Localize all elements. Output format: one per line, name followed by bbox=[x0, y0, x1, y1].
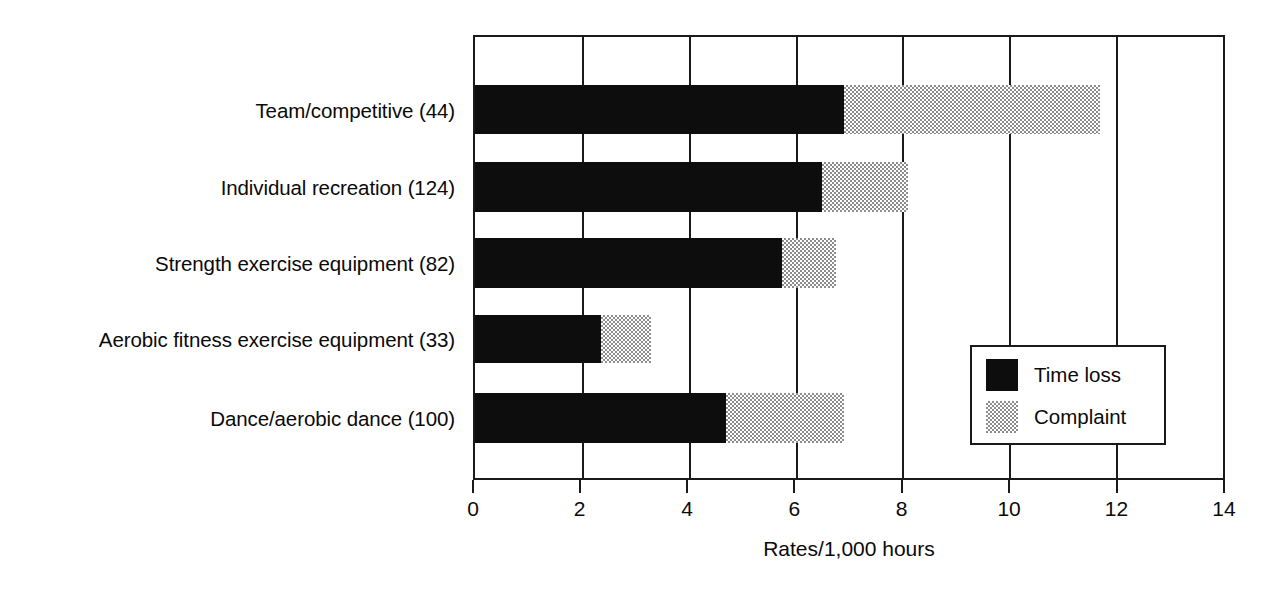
tick-mark-6 bbox=[793, 480, 795, 493]
category-label-text: Team/competitive (44) bbox=[255, 99, 455, 122]
bar-segment-complaint bbox=[822, 162, 907, 212]
legend-swatch-icon bbox=[986, 401, 1018, 433]
tick-label-10: 10 bbox=[979, 498, 1039, 519]
legend-label: Complaint bbox=[1034, 407, 1126, 428]
tick-label-2: 2 bbox=[550, 498, 610, 519]
bar-segment-time-loss bbox=[475, 238, 782, 288]
bar-chart: Team/competitive (44) Individual recreat… bbox=[0, 0, 1273, 600]
bar-segment-complaint bbox=[782, 238, 835, 288]
bar-segment-time-loss bbox=[475, 162, 822, 212]
legend: Time loss Complaint bbox=[970, 345, 1166, 445]
tick-label-14: 14 bbox=[1194, 498, 1254, 519]
legend-label: Time loss bbox=[1034, 365, 1121, 386]
bar-segment-time-loss bbox=[475, 315, 601, 363]
table-row bbox=[475, 238, 1223, 288]
tick-label-4: 4 bbox=[657, 498, 717, 519]
tick-mark-2 bbox=[579, 480, 581, 493]
category-label-individual-recreation: Individual recreation (124) bbox=[0, 178, 455, 199]
tick-mark-8 bbox=[901, 480, 903, 493]
table-row bbox=[475, 162, 1223, 212]
tick-label-6: 6 bbox=[764, 498, 824, 519]
category-label-team-competitive: Team/competitive (44) bbox=[0, 101, 455, 122]
legend-item-complaint: Complaint bbox=[986, 401, 1126, 433]
tick-mark-10 bbox=[1008, 480, 1010, 493]
bar-segment-time-loss bbox=[475, 85, 844, 134]
tick-label-0: 0 bbox=[443, 498, 503, 519]
category-label-text: Strength exercise equipment (82) bbox=[155, 252, 455, 275]
category-label-text: Aerobic fitness exercise equipment (33) bbox=[99, 328, 455, 351]
tick-mark-12 bbox=[1116, 480, 1118, 493]
tick-label-8: 8 bbox=[872, 498, 932, 519]
bar-segment-complaint bbox=[726, 393, 844, 443]
tick-mark-0 bbox=[472, 480, 474, 493]
table-row bbox=[475, 85, 1223, 134]
category-label-text: Dance/aerobic dance (100) bbox=[210, 407, 455, 430]
bar-segment-complaint bbox=[844, 85, 1100, 134]
tick-mark-14 bbox=[1223, 480, 1225, 493]
category-label-dance-aerobic-dance: Dance/aerobic dance (100) bbox=[0, 409, 455, 430]
category-label-text: Individual recreation (124) bbox=[221, 176, 455, 199]
x-axis-title: Rates/1,000 hours bbox=[473, 538, 1225, 559]
category-label-strength-exercise-equipment: Strength exercise equipment (82) bbox=[0, 254, 455, 275]
bar-segment-time-loss bbox=[475, 393, 726, 443]
bar-segment-complaint bbox=[601, 315, 652, 363]
tick-label-12: 12 bbox=[1087, 498, 1147, 519]
legend-item-time-loss: Time loss bbox=[986, 359, 1121, 391]
tick-mark-4 bbox=[686, 480, 688, 493]
legend-swatch-icon bbox=[986, 359, 1018, 391]
category-label-aerobic-fitness-exercise-equipment: Aerobic fitness exercise equipment (33) bbox=[0, 330, 455, 351]
